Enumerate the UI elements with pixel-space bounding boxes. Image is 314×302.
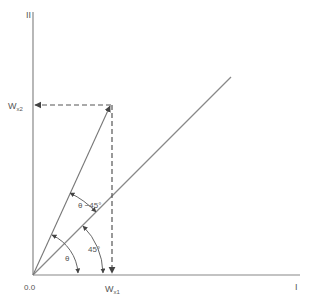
angle-45-label: 45° [88,245,100,254]
rotation-diagram: II I 0.0 Wx2 Wx1 θ 45° θ −45° [0,0,314,302]
reference-line-45 [33,77,231,275]
origin-label: 0.0 [24,283,36,292]
axis-i-label: I [295,282,298,292]
theta-label: θ [65,254,70,263]
theta-minus-45-label: θ −45° [78,201,101,210]
axis-ii-label: II [26,10,31,20]
wx2-label: Wx2 [8,101,24,112]
wx1-label: Wx1 [105,284,121,295]
